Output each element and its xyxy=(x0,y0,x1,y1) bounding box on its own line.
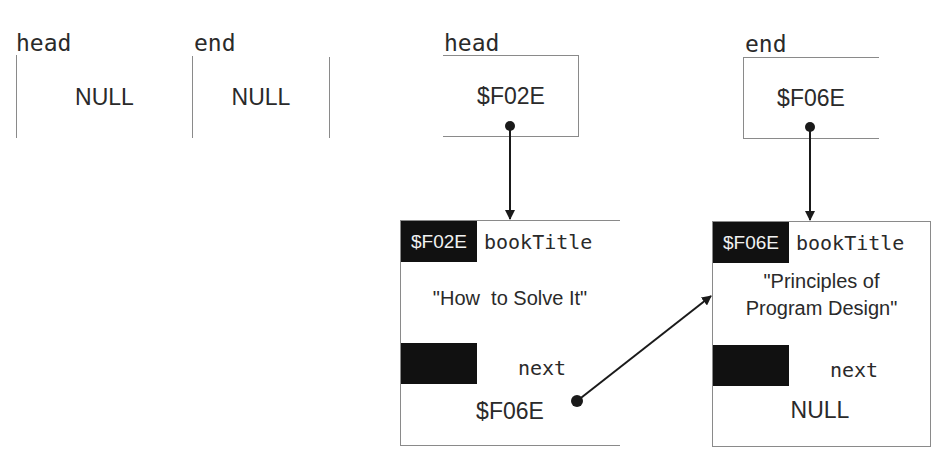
end-to-node-2-arrow xyxy=(805,122,815,220)
head-to-node-1-arrow xyxy=(505,121,515,219)
node-1-next-to-node-2-arrow xyxy=(571,296,711,407)
pointer-arrows xyxy=(0,0,947,455)
